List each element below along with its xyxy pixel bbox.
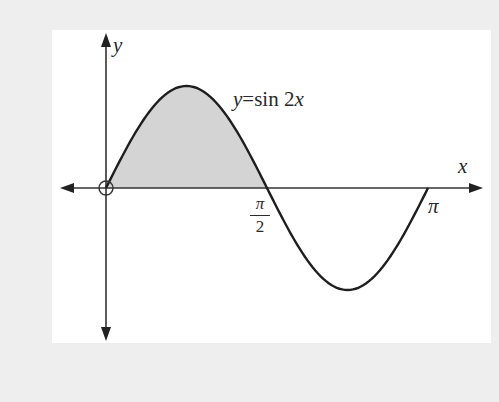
x-axis-left-arrow-icon	[60, 183, 74, 193]
half-pi-numerator: π	[250, 194, 270, 216]
function-eq: =	[242, 87, 254, 111]
function-x: x	[294, 87, 303, 111]
tick-label-half-pi: π 2	[250, 194, 270, 237]
tick-label-pi: π	[428, 196, 439, 217]
half-pi-denominator: 2	[250, 216, 270, 237]
y-axis-up-arrow-icon	[101, 33, 111, 47]
y-axis-down-arrow-icon	[101, 327, 111, 341]
function-label: y=sin 2x	[233, 89, 304, 110]
x-axis-right-arrow-icon	[469, 183, 483, 193]
function-sin: sin 2	[254, 87, 294, 111]
y-axis-label: y	[113, 35, 122, 56]
x-axis-label: x	[458, 156, 467, 177]
function-lhs: y	[233, 87, 242, 111]
